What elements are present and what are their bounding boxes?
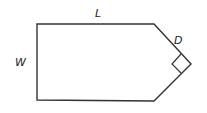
label-diagonal: D xyxy=(174,34,182,47)
label-length: L xyxy=(95,7,101,20)
label-width: W xyxy=(15,56,27,69)
diagram-canvas: L W D xyxy=(0,0,207,113)
right-angle-marker xyxy=(172,54,181,73)
pentagon-outline xyxy=(37,24,191,101)
